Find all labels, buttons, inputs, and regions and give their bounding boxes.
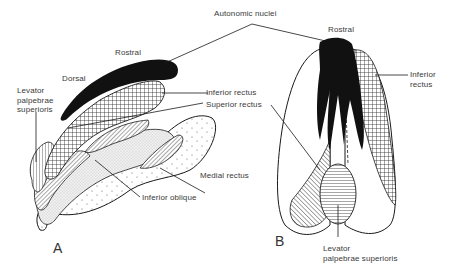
label-inferior-rectus-a: Inferior rectus xyxy=(206,88,256,98)
panel-label-a: A xyxy=(53,240,62,256)
label-levator-a-line1: Levator xyxy=(17,86,54,96)
label-inferior-rectus-b-line1: Inferior xyxy=(410,70,436,80)
panel-label-b: B xyxy=(275,233,284,249)
oculomotor-nucleus-diagram xyxy=(0,0,456,275)
label-medial-rectus-a: Medial rectus xyxy=(200,171,249,181)
label-dorsal-a: Dorsal xyxy=(62,74,86,84)
label-levator-a-line3: superioris xyxy=(17,105,54,115)
label-inferior-rectus-b-line2: rectus xyxy=(410,80,436,90)
label-inferior-rectus-b: Inferior rectus xyxy=(410,70,436,89)
panel-b-drawing xyxy=(277,38,395,235)
panel-a-drawing xyxy=(30,59,215,230)
label-inferior-oblique-a: Inferior oblique xyxy=(142,193,197,203)
label-levator-b: Levator palpebrae superioris xyxy=(323,244,398,263)
label-autonomic-nuclei: Autonomic nuclei xyxy=(214,9,277,19)
label-levator-a-line2: palpebrae xyxy=(17,96,54,106)
label-levator-b-line2: palpebrae superioris xyxy=(323,254,398,264)
label-rostral-b: Rostral xyxy=(328,25,354,35)
label-levator-b-line1: Levator xyxy=(323,244,398,254)
label-superior-rectus-a: Superior rectus xyxy=(206,100,262,110)
label-rostral-a: Rostral xyxy=(115,48,141,58)
label-levator-a: Levator palpebrae superioris xyxy=(17,86,54,115)
